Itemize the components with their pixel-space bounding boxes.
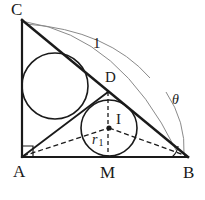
point-d-dot — [107, 91, 110, 94]
point-i-dot — [106, 125, 111, 130]
dashed-ib-line — [109, 128, 187, 156]
label-angle-theta: θ — [172, 93, 179, 107]
large-circle — [22, 53, 88, 119]
label-vertex-b: B — [183, 164, 194, 181]
geometry-figure: C A B D I M 1 r1 θ — [0, 0, 205, 200]
hypotenuse-cb-line — [22, 20, 188, 157]
label-point-d: D — [105, 70, 116, 85]
hypotenuse-length-arc-upper — [26, 24, 150, 78]
label-point-m: M — [100, 164, 115, 181]
label-radius-r1: r1 — [92, 133, 102, 147]
label-vertex-a: A — [13, 163, 25, 180]
cevian-ad-line — [22, 92, 108, 157]
label-point-i: I — [116, 112, 121, 127]
label-radius-subscript: 1 — [98, 137, 103, 148]
label-vertex-c: C — [11, 1, 22, 18]
label-radius-letter: r — [92, 132, 97, 147]
label-length-one: 1 — [93, 36, 101, 51]
